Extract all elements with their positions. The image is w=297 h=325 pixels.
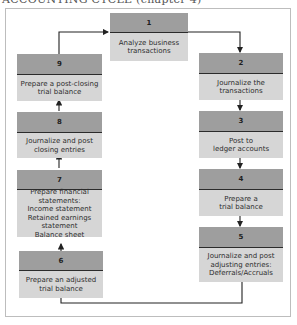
step-description: Prepare an adjusted trial balance [19,271,103,298]
step-7-financial-statements: 7 Prepare financial statements: Income s… [17,170,102,237]
step-description: Post to ledger accounts [199,132,283,158]
step-8-closing-entries: 8 Journalize and post closing entries [17,112,102,158]
arrow-1-to-2 [188,32,240,52]
step-2-journalize-transactions: 2 Journalize the transactions [199,53,283,100]
step-number: 8 [17,112,102,133]
step-description: Prepare a post-closing trial balance [17,75,102,101]
step-number: 4 [199,169,283,190]
step-description: Journalize the transactions [199,74,283,100]
step-description: Journalize and post adjusting entries: D… [199,248,283,282]
step-number: 2 [199,53,283,74]
step-9-post-closing-trial-balance: 9 Prepare a post-closing trial balance [17,54,102,101]
step-1-analyze-transactions: 1 Analyze business transactions [110,13,188,61]
step-number: 5 [199,227,283,248]
step-number: 1 [110,13,188,33]
step-number: 9 [17,54,102,75]
step-description: Prepare a trial balance [199,190,283,216]
step-description: Journalize and post closing entries [17,133,102,158]
step-number: 3 [199,111,283,132]
step-number: 6 [19,251,103,271]
arrow-9-to-1 [59,32,108,54]
step-5-adjusting-entries: 5 Journalize and post adjusting entries:… [199,227,283,282]
step-description: Analyze business transactions [110,33,188,61]
step-6-adjusted-trial-balance: 6 Prepare an adjusted trial balance [19,251,103,298]
step-description: Prepare financial statements: Income sta… [17,190,102,237]
step-3-post-to-ledger: 3 Post to ledger accounts [199,111,283,158]
step-4-prepare-trial-balance: 4 Prepare a trial balance [199,169,283,216]
step-number: 7 [17,170,102,190]
